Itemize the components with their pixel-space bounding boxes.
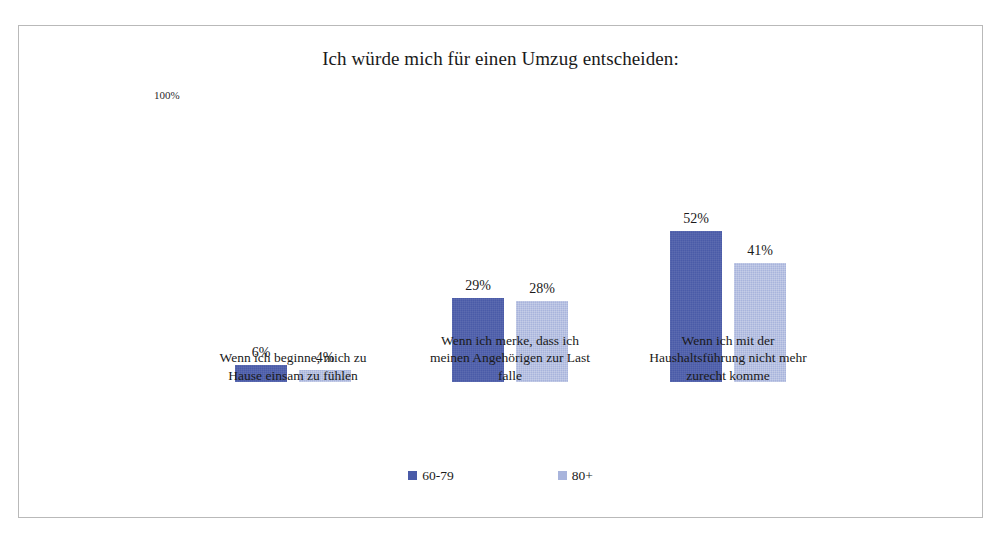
category-label-line: Wenn ich merke, dass ich — [384, 332, 636, 350]
chart-frame: Ich würde mich für einen Umzug entscheid… — [18, 25, 983, 518]
bar-group-bars: 6%4% — [195, 92, 391, 382]
bar-value-label: 28% — [502, 281, 582, 297]
category-label-line: Hause einsam zu fühlen — [167, 367, 419, 385]
legend-swatch-icon — [558, 471, 567, 480]
category-label-line: Wenn ich mit der — [602, 332, 854, 350]
category-label-line: zurecht komme — [602, 367, 854, 385]
legend-label: 80+ — [572, 468, 593, 483]
category-label-line: falle — [384, 367, 636, 385]
category-label: Wenn ich mit derHaushaltsführung nicht m… — [602, 332, 854, 385]
legend-swatch-icon — [408, 471, 417, 480]
plot-area: 6%4%Wenn ich beginne, mich zuHause einsa… — [19, 26, 982, 517]
legend-label: 60-79 — [422, 468, 454, 483]
category-label: Wenn ich merke, dass ichmeinen Angehörig… — [384, 332, 636, 385]
category-label: Wenn ich beginne, mich zuHause einsam zu… — [167, 349, 419, 384]
chart-page: Ich würde mich für einen Umzug entscheid… — [0, 0, 1002, 533]
bar-group: 52%41%Wenn ich mit derHaushaltsführung n… — [630, 72, 826, 382]
chart-legend: 60-7980+ — [19, 468, 982, 484]
legend-item-60-79[interactable]: 60-79 — [408, 468, 454, 484]
category-label-line: meinen Angehörigen zur Last — [384, 349, 636, 367]
bar-value-label: 52% — [656, 211, 736, 227]
legend-item-80+[interactable]: 80+ — [558, 468, 593, 484]
category-label-line: Haushaltsführung nicht mehr — [602, 349, 854, 367]
category-label-line: Wenn ich beginne, mich zu — [167, 349, 419, 367]
bar-group: 29%28%Wenn ich merke, dass ichmeinen Ang… — [412, 72, 608, 382]
bar-group: 6%4%Wenn ich beginne, mich zuHause einsa… — [195, 72, 391, 382]
bar-value-label: 41% — [720, 243, 800, 259]
